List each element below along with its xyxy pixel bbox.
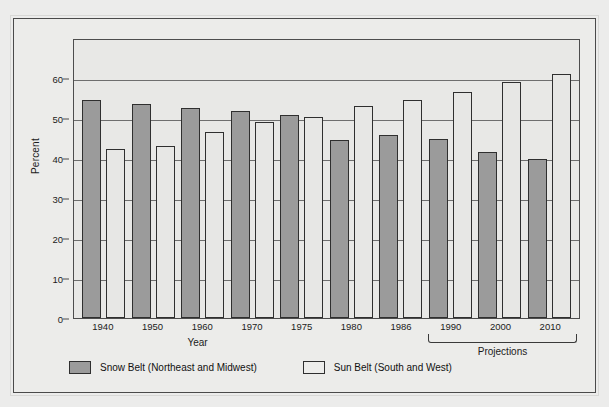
bar-sun-belt-2000[interactable] [502,82,521,318]
bar-sun-belt-1975[interactable] [304,117,323,318]
legend-swatch-sun-icon [303,361,325,374]
projections-bracket [428,334,577,343]
bar-group-1986 [376,40,426,318]
plot-area [73,39,580,319]
bar-sun-belt-1986[interactable] [403,100,422,318]
bar-group-2000 [475,40,525,318]
y-axis-tick-label: 30 [52,194,63,205]
x-axis-tick-label-1980: 1980 [327,321,377,337]
bar-group [74,40,579,318]
bar-sun-belt-2010[interactable] [552,74,571,318]
y-axis-tick-mark [63,239,69,240]
x-axis-title-text: Year [187,337,207,348]
plot-wrapper: 6050403020100 [73,39,580,319]
legend-item-sun[interactable]: Sun Belt (South and West) [303,361,452,374]
bar-snow-belt-1990[interactable] [429,139,448,318]
bar-group-1940 [79,40,129,318]
x-axis-tick-label-1960: 1960 [177,321,227,337]
bar-sun-belt-1950[interactable] [156,146,175,318]
bar-group-1950 [129,40,179,318]
chart-outer-frame: Percent 6050403020100 194019501960197019… [13,18,596,393]
y-axis-tick-label: 20 [52,234,63,245]
bar-sun-belt-1970[interactable] [255,122,274,318]
bar-snow-belt-1980[interactable] [330,140,349,318]
legend-item-snow[interactable]: Snow Belt (Northeast and Midwest) [69,361,257,374]
x-axis-tick-label-1975: 1975 [277,321,327,337]
bar-snow-belt-1975[interactable] [280,115,299,318]
bar-group-1970 [228,40,278,318]
bar-snow-belt-2000[interactable] [478,152,497,318]
x-axis-tick-label-1970: 1970 [227,321,277,337]
y-axis-tick-label: 50 [52,114,63,125]
bar-group-1980 [327,40,377,318]
legend-swatch-snow-icon [69,361,91,374]
chart-legend: Snow Belt (Northeast and Midwest)Sun Bel… [69,361,452,374]
y-axis-tick-mark [63,79,69,80]
bar-sun-belt-1940[interactable] [106,149,125,318]
bar-snow-belt-1970[interactable] [231,111,250,318]
y-axis-tick-mark [63,159,69,160]
bar-sun-belt-1960[interactable] [205,132,224,318]
x-axis-tick-label-1950: 1950 [128,321,178,337]
y-axis-tick-label: 40 [52,154,63,165]
bar-sun-belt-1980[interactable] [354,106,373,318]
y-axis-tick-mark [63,199,69,200]
bar-group-2010 [525,40,575,318]
bar-snow-belt-1940[interactable] [82,100,101,318]
bar-snow-belt-2010[interactable] [528,159,547,318]
y-axis-tick-mark [63,279,69,280]
y-axis-tick-label: 60 [52,74,63,85]
legend-label: Snow Belt (Northeast and Midwest) [100,362,257,373]
bar-snow-belt-1960[interactable] [181,108,200,318]
bar-group-1960 [178,40,228,318]
bar-group-1975 [277,40,327,318]
legend-label: Sun Belt (South and West) [334,362,452,373]
bar-sun-belt-1990[interactable] [453,92,472,318]
y-axis-tick-mark [63,119,69,120]
projections-label: Projections [428,346,577,357]
bar-group-1990 [426,40,476,318]
y-axis-tick-mark [63,319,69,320]
y-axis-tick-group: 6050403020100 [39,39,69,319]
x-axis-tick-label-1940: 1940 [78,321,128,337]
bar-snow-belt-1950[interactable] [132,104,151,318]
y-axis-tick-label: 10 [52,274,63,285]
figure-container: Percent 6050403020100 194019501960197019… [0,0,609,407]
x-axis-tick-label-1986: 1986 [376,321,426,337]
bar-snow-belt-1986[interactable] [379,135,398,318]
